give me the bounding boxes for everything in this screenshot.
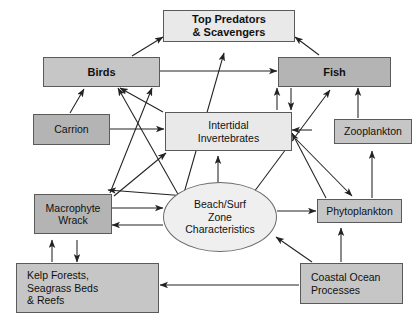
node-phytoplankton[interactable]: Phytoplankton — [317, 199, 402, 223]
edge-macrophyte-intertidal — [114, 153, 166, 196]
node-macrophyte-line2: Wrack — [46, 214, 101, 226]
edge-fish-top-predators — [295, 37, 319, 55]
node-kelp-line3: & Reefs — [27, 294, 98, 306]
node-top-predators[interactable]: Top Predators & Scavengers — [163, 10, 295, 42]
node-macrophyte-line1: Macrophyte — [46, 202, 101, 214]
node-beach-line1: Beach/Surf — [185, 198, 254, 211]
node-coastal-line1: Coastal Ocean — [311, 271, 380, 283]
node-beach-line2: Zone — [185, 211, 254, 224]
node-zooplankton-label: Zooplankton — [344, 125, 402, 137]
edge-coastal-beach — [276, 237, 312, 262]
node-birds[interactable]: Birds — [43, 57, 160, 87]
node-kelp-line1: Kelp Forests, — [27, 269, 98, 281]
edge-macrophyte-birds — [110, 88, 152, 193]
node-kelp-forests[interactable]: Kelp Forests, Seagrass Beds & Reefs — [16, 263, 159, 313]
node-carrion-label: Carrion — [54, 123, 88, 135]
node-macrophyte-wrack[interactable]: Macrophyte Wrack — [34, 194, 112, 234]
node-intertidal-invertebrates[interactable]: Intertidal Invertebrates — [165, 112, 292, 151]
edge-phytoplankton-fish — [292, 133, 326, 198]
node-birds-label: Birds — [87, 66, 115, 79]
node-fish-label: Fish — [323, 66, 346, 79]
node-beach-surf-zone[interactable]: Beach/Surf Zone Characteristics — [163, 182, 277, 252]
food-web-diagram: Top Predators & Scavengers Birds Fish Ca… — [0, 0, 418, 322]
edge-birds-top-predators — [132, 37, 163, 56]
node-coastal-line2: Processes — [311, 284, 380, 296]
edge-carrion-birds — [70, 89, 84, 113]
node-coastal-ocean-processes[interactable]: Coastal Ocean Processes — [300, 263, 403, 304]
node-fish[interactable]: Fish — [278, 57, 391, 87]
edge-fish-phytoplankton-cross — [296, 139, 352, 196]
node-carrion[interactable]: Carrion — [33, 114, 110, 145]
node-zooplankton[interactable]: Zooplankton — [334, 119, 412, 144]
node-intertidal-line2: Invertebrates — [198, 132, 259, 144]
node-intertidal-line1: Intertidal — [198, 119, 259, 131]
node-beach-line3: Characteristics — [185, 223, 254, 236]
edge-intertidal-birds — [120, 88, 163, 112]
node-kelp-line2: Seagrass Beds — [27, 282, 98, 294]
node-top-predators-line2: & Scavengers — [192, 26, 266, 39]
node-top-predators-line1: Top Predators — [192, 13, 266, 26]
node-phytoplankton-label: Phytoplankton — [326, 205, 393, 217]
